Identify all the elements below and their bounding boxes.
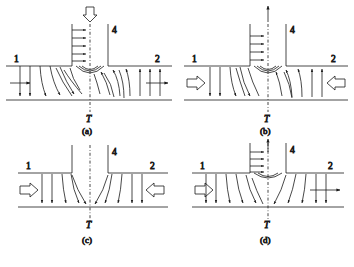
panel-a-branch-inflow-hollow-arrow	[83, 7, 97, 22]
panel-b-right-streamlines	[276, 69, 322, 98]
panel-b-branch-velocity-arrows	[250, 36, 264, 60]
panel-b-left-inflow-hollow-arrow	[187, 76, 205, 90]
panel-c-label-1: 1	[26, 161, 31, 171]
panel-a: 1 2 4 T (a)	[6, 7, 172, 136]
panel-c-right-streamlines	[95, 174, 142, 204]
panel-d-caption: (d)	[260, 235, 271, 245]
panel-b: 1 2 4 T (b)	[184, 6, 348, 136]
panel-a-label-2: 2	[155, 54, 160, 64]
panel-a-caption: (a)	[82, 126, 92, 136]
panel-d-label-1: 1	[200, 161, 205, 171]
panel-c: 1 2 4 T (c)	[18, 145, 168, 245]
panel-c-label-T: T	[86, 220, 92, 230]
panel-c-caption: (c)	[82, 235, 92, 245]
panel-c-label-2: 2	[150, 161, 155, 171]
panel-a-left-streamlines	[20, 66, 82, 96]
panel-b-label-T: T	[264, 114, 270, 124]
panel-c-right-inflow-hollow-arrow	[146, 183, 164, 197]
figure-container: 1 2 4 T (a)	[0, 0, 354, 267]
panel-a-right-streamlines	[94, 69, 160, 98]
tee-junction-diagram: 1 2 4 T (a)	[0, 0, 354, 267]
panel-d-label-4: 4	[290, 145, 295, 155]
panel-c-left-inflow-hollow-arrow	[20, 183, 38, 197]
panel-d-right-streamlines	[274, 174, 326, 204]
panel-b-label-1: 1	[192, 54, 197, 64]
panel-c-label-4: 4	[112, 147, 117, 157]
panel-d-left-inflow-hollow-arrow	[195, 183, 213, 197]
panel-b-label-2: 2	[331, 54, 336, 64]
panel-d: 1 2 4 T (d)	[192, 139, 344, 245]
panel-d-left-streamlines	[206, 174, 263, 204]
panel-b-label-4: 4	[290, 25, 295, 35]
panel-c-left-streamlines	[42, 174, 86, 204]
panel-a-branch-velocity-arrows	[72, 30, 86, 61]
panel-a-label-T: T	[86, 114, 92, 124]
panel-a-label-1: 1	[14, 54, 19, 64]
panel-d-label-2: 2	[328, 161, 333, 171]
panel-b-caption: (b)	[260, 126, 271, 136]
panel-d-branch-velocity-arrows	[250, 152, 264, 172]
panel-b-right-inflow-hollow-arrow	[327, 76, 345, 90]
panel-a-label-4: 4	[112, 25, 117, 35]
panel-b-left-streamlines	[210, 67, 259, 96]
panel-d-label-T: T	[264, 220, 270, 230]
